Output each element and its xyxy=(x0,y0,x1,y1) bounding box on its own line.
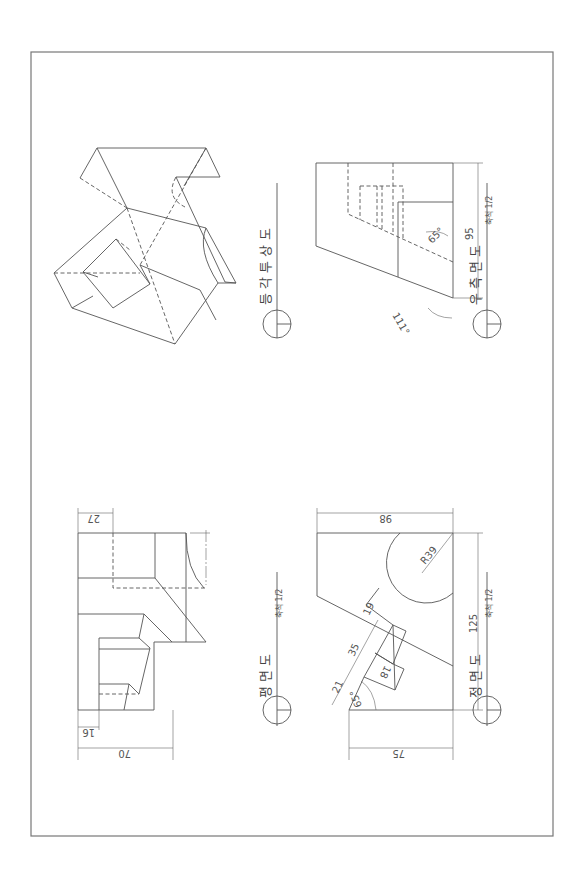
isometric-view xyxy=(54,148,236,344)
rsv-dim-111-angle: 111° xyxy=(390,311,412,337)
front-dim-98: 98 xyxy=(379,513,392,524)
plan-dim-16: 16 xyxy=(82,727,95,738)
plan-view xyxy=(78,530,210,710)
front-dim-18: 18 xyxy=(378,664,393,680)
right-side-view-scale: 축척 1/2 xyxy=(485,196,494,225)
front-dim-75: 75 xyxy=(392,748,405,759)
front-dim-19: 19 xyxy=(361,601,376,617)
rsv-dim-95: 95 xyxy=(464,227,475,240)
plan-view-scale: 축척 1/2 xyxy=(275,589,284,618)
front-view-scale: 축척 1/2 xyxy=(485,589,494,618)
plan-view-title: 평 면 도 xyxy=(258,654,273,698)
right-side-view-title: 우 측 면 도 xyxy=(468,245,483,305)
plan-dim-27: 27 xyxy=(87,513,100,524)
drawing-sheet: 등 각 투 상 도 95 65° 111° 우 측 면 도 축척 1/2 xyxy=(0,0,583,874)
front-dim-65-angle: 65° xyxy=(347,689,363,709)
sheet-frame xyxy=(31,52,553,836)
isometric-view-title: 등 각 투 상 도 xyxy=(258,228,273,305)
plan-dim-70: 70 xyxy=(118,748,131,759)
front-dim-125: 125 xyxy=(468,614,479,633)
front-view-title: 정 면 도 xyxy=(468,654,483,698)
rsv-dim-65-angle: 65° xyxy=(426,225,446,245)
front-dim-21: 21 xyxy=(330,679,345,695)
